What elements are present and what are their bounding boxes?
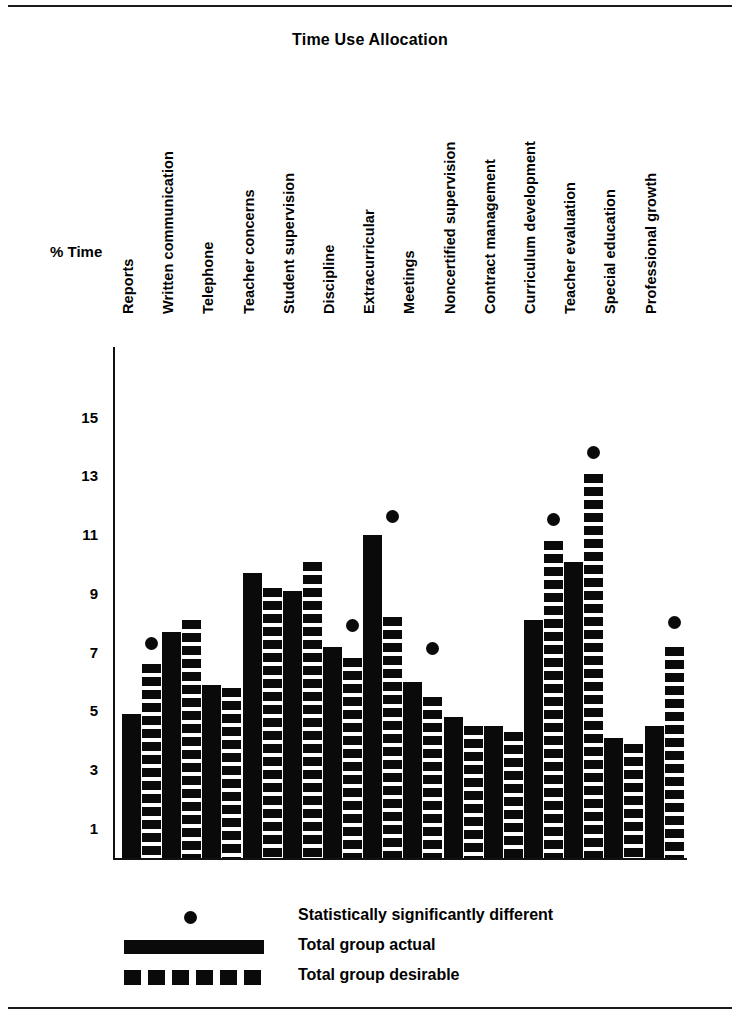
significance-dot — [346, 619, 359, 632]
legend-label: Statistically significantly different — [298, 906, 553, 924]
bar-actual — [403, 682, 422, 858]
bar-desirable — [544, 541, 563, 858]
y-tick-label: 9 — [52, 585, 98, 602]
bar-actual — [122, 714, 141, 858]
bar-actual — [363, 535, 382, 858]
bar-desirable — [343, 658, 362, 858]
legend-label: Total group desirable — [298, 966, 460, 984]
significance-dot — [547, 513, 560, 526]
y-tick-label: 5 — [52, 702, 98, 719]
bar-desirable — [504, 732, 523, 858]
bar-actual — [524, 620, 543, 858]
bar-actual — [202, 685, 221, 858]
bar-desirable — [665, 647, 684, 858]
plot-area: 15131197531 — [0, 0, 740, 900]
bar-actual — [484, 726, 503, 858]
bar-desirable — [423, 697, 442, 858]
legend-key — [116, 934, 266, 960]
bar-desirable — [624, 744, 643, 858]
y-tick-label: 11 — [52, 526, 98, 543]
legend-solid-swatch-icon — [124, 940, 264, 954]
bar-actual — [243, 573, 262, 858]
bar-actual — [283, 591, 302, 858]
significance-dot — [426, 642, 439, 655]
legend-dot-icon — [184, 911, 197, 924]
legend: Statistically significantly differentTot… — [0, 900, 740, 1010]
bar-actual — [645, 726, 664, 858]
significance-dot — [587, 446, 600, 459]
bar-desirable — [263, 588, 282, 858]
bar-actual — [604, 738, 623, 858]
significance-dot — [145, 637, 158, 650]
bar-desirable — [303, 562, 322, 858]
bar-actual — [564, 562, 583, 858]
bar-actual — [162, 632, 181, 858]
y-axis-line — [113, 347, 115, 860]
bar-actual — [323, 647, 342, 858]
bar-desirable — [584, 474, 603, 858]
bar-desirable — [222, 688, 241, 858]
x-axis-line — [113, 858, 687, 860]
legend-label: Total group actual — [298, 936, 435, 954]
legend-key — [116, 904, 266, 930]
bar-desirable — [182, 620, 201, 858]
bar-desirable — [464, 726, 483, 858]
bar-desirable — [383, 617, 402, 858]
bar-actual — [444, 717, 463, 858]
y-tick-label: 1 — [52, 820, 98, 837]
significance-dot — [668, 616, 681, 629]
bar-desirable — [142, 664, 161, 858]
legend-dashed-swatch-icon — [124, 970, 264, 985]
y-tick-label: 15 — [52, 409, 98, 426]
legend-key — [116, 964, 266, 990]
y-tick-label: 13 — [52, 467, 98, 484]
significance-dot — [386, 510, 399, 523]
y-tick-label: 3 — [52, 761, 98, 778]
y-tick-label: 7 — [52, 644, 98, 661]
figure-page: Time Use Allocation % Time ReportsWritte… — [0, 0, 740, 1031]
